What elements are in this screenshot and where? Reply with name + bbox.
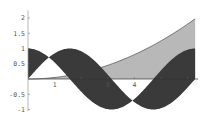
y-tick-label: -0.5	[9, 91, 25, 99]
chart: 134-1-0.50.511.52	[0, 0, 208, 120]
y-tick-label: -1	[17, 106, 25, 114]
plot-area	[28, 19, 195, 110]
x-tick-label: 1	[53, 81, 57, 89]
x-tick-label: 4	[132, 81, 136, 89]
x-tick-label: 3	[106, 81, 110, 89]
y-tick-label: 1.5	[13, 30, 25, 38]
y-tick-label: 1	[21, 45, 25, 53]
y-tick-label: 2	[21, 14, 25, 22]
y-tick-label: 0.5	[13, 60, 25, 68]
